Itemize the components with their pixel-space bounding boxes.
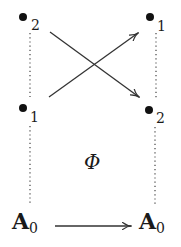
left-A0-label: A0 xyxy=(12,210,38,235)
phi-map-label: Φ xyxy=(84,152,100,172)
right-top-dot xyxy=(146,13,154,21)
arrow-1-to-1 xyxy=(49,33,138,97)
right-A-subscript: 0 xyxy=(156,220,165,236)
left-middle-dot xyxy=(19,104,27,112)
left-top-dot xyxy=(19,13,27,21)
right-A0-label: A0 xyxy=(139,210,165,235)
left-A-subscript: 0 xyxy=(29,220,38,236)
right-middle-subscript: 2 xyxy=(156,111,165,125)
right-top-subscript: 1 xyxy=(157,19,166,33)
left-top-subscript: 2 xyxy=(31,18,40,32)
right-A-letter: A xyxy=(139,208,156,234)
left-A-letter: A xyxy=(12,208,29,234)
right-middle-dot xyxy=(145,106,153,114)
left-middle-subscript: 1 xyxy=(30,110,39,124)
